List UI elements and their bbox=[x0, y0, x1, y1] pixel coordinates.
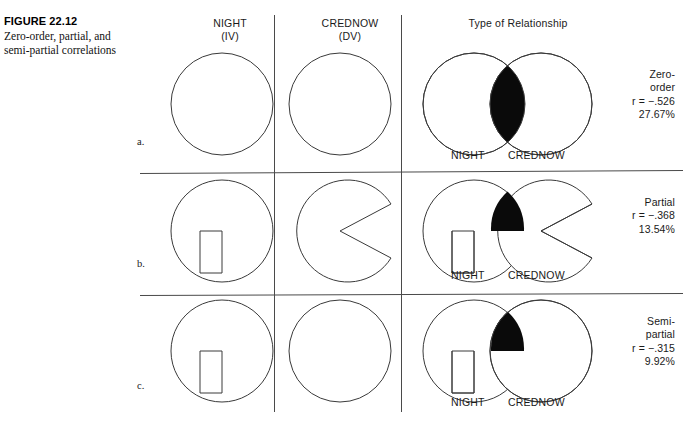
figure-container: FIGURE 22.12 Zero-order, partial, and se… bbox=[0, 0, 683, 438]
result-block-zero-order: Zero- order r = −.526 27.67% bbox=[583, 68, 675, 122]
divider-horizontal-2 bbox=[140, 294, 683, 296]
divider-horizontal-1 bbox=[140, 171, 683, 174]
row-b-night-notched-circle bbox=[171, 180, 273, 282]
row-b-label-night: NIGHT bbox=[451, 269, 485, 281]
result-r-a: r = −.526 bbox=[583, 95, 675, 108]
diagram-canvas bbox=[0, 0, 683, 438]
row-a-label-crednow: CREDNOW bbox=[508, 149, 565, 161]
result-block-partial: Partial r = −.368 13.54% bbox=[583, 196, 675, 236]
row-a-night-circle bbox=[171, 53, 273, 155]
row-letter-b: b. bbox=[137, 258, 145, 269]
result-variance-a: 27.67% bbox=[583, 108, 675, 121]
row-c-crednow-circle bbox=[289, 300, 391, 402]
row-a-label-night: NIGHT bbox=[451, 149, 485, 161]
row-b-venn-night-notch-outline bbox=[452, 231, 474, 273]
row-a-crednow-circle bbox=[289, 53, 391, 155]
result-type-line1-c: Semi- bbox=[583, 315, 675, 328]
result-type-line1-b: Partial bbox=[583, 196, 675, 209]
result-variance-b: 13.54% bbox=[583, 223, 675, 236]
row-b-label-crednow: CREDNOW bbox=[508, 269, 565, 281]
row-c-label-crednow: CREDNOW bbox=[508, 396, 565, 408]
result-type-line2-c: partial bbox=[583, 328, 675, 341]
row-c-label-night: NIGHT bbox=[451, 396, 485, 408]
row-letter-a: a. bbox=[137, 136, 144, 147]
result-block-semi-partial: Semi- partial r = −.315 9.92% bbox=[583, 315, 675, 369]
result-r-b: r = −.368 bbox=[583, 209, 675, 222]
result-type-line1-a: Zero- bbox=[583, 68, 675, 81]
result-r-c: r = −.315 bbox=[583, 342, 675, 355]
row-letter-c: c. bbox=[137, 380, 144, 391]
row-b-crednow-pacman bbox=[297, 180, 391, 282]
row-c-venn-night-notch-outline bbox=[452, 351, 474, 393]
result-variance-c: 9.92% bbox=[583, 355, 675, 368]
result-type-line2-a: order bbox=[583, 81, 675, 94]
row-c-night-notched-circle bbox=[171, 300, 273, 402]
